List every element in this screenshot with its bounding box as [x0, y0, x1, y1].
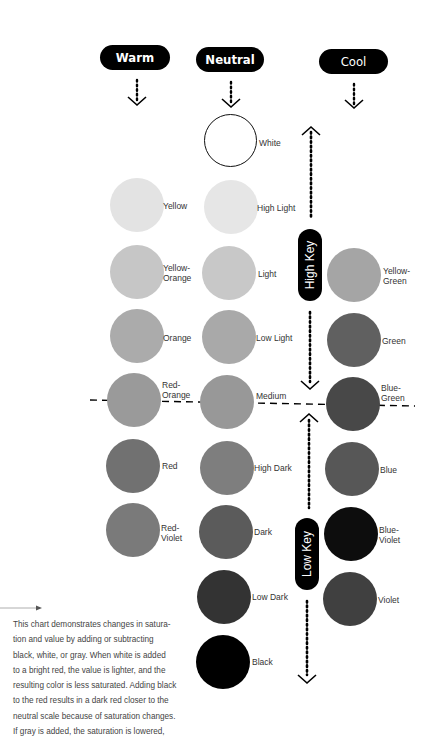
warm-label-orange: Orange: [163, 333, 191, 343]
caption-arrow-icon: [0, 606, 42, 611]
neutral-swatch-dark: [199, 505, 253, 559]
high-key-up-arrow-icon: [302, 127, 320, 218]
cool-label-yellow-green: Yellow- Green: [383, 266, 410, 286]
neutral-label-medium: Medium: [256, 391, 286, 401]
cool-swatch-violet: [323, 572, 377, 626]
neutral-label-dark: Dark: [254, 527, 272, 537]
high-key-label: High Key: [303, 241, 317, 290]
neutral-swatch-low-dark: [197, 570, 251, 624]
warm-swatch-red: [106, 439, 160, 493]
neutral-swatch-high-light: [204, 180, 258, 234]
neutral-label-light: Light: [258, 269, 276, 279]
cool-swatch-blue: [325, 442, 379, 496]
caption-text: This chart demonstrates changes in satur…: [13, 617, 213, 739]
neutral-swatch-high-dark: [200, 441, 254, 495]
neutral-label-low-light: Low Light: [256, 333, 292, 343]
high-key-down-arrow-icon: [301, 312, 319, 389]
high-key-pill: High Key: [298, 229, 322, 301]
cool-label-blue-violet: Blue- Violet: [379, 525, 400, 545]
neutral-label-white: White: [259, 138, 281, 148]
cool-label-blue: Blue: [380, 465, 397, 475]
neutral-swatch-medium: [200, 375, 254, 429]
warm-label-red: Red: [162, 461, 178, 471]
warm-down-arrow-icon: [128, 80, 146, 105]
warm-label-yellow: Yellow: [163, 201, 187, 211]
low-key-pill: Low Key: [295, 518, 319, 590]
cool-swatch-yellow-green: [327, 248, 381, 302]
neutral-down-arrow-icon: [222, 82, 240, 107]
low-key-label: Low Key: [300, 531, 314, 577]
cool-label-green: Green: [382, 336, 406, 346]
warm-label-red-orange: Red- Orange: [162, 380, 190, 400]
low-key-down-arrow-icon: [298, 601, 316, 683]
cool-label-blue-green: Blue- Green: [381, 383, 405, 403]
cool-swatch-green: [327, 313, 381, 367]
neutral-label-high-dark: High Dark: [254, 463, 292, 473]
neutral-label-low-dark: Low Dark: [252, 592, 288, 602]
neutral-swatch-low-light: [202, 310, 256, 364]
warm-label-red-violet: Red- Violet: [161, 523, 182, 543]
neutral-swatch-light: [202, 246, 256, 300]
cool-swatch-blue-green: [326, 377, 380, 431]
neutral-swatch-white: [204, 114, 257, 167]
warm-swatch-yellow-orange: [110, 245, 164, 299]
cool-down-arrow-icon: [345, 84, 363, 108]
warm-swatch-yellow: [110, 178, 164, 232]
neutral-label-high-light: High Light: [257, 203, 295, 213]
cool-label-violet: Violet: [378, 595, 399, 605]
warm-swatch-red-orange: [107, 373, 161, 427]
neutral-label-black: Black: [252, 657, 273, 667]
warm-label-yellow-orange: Yellow- Orange: [163, 263, 191, 283]
low-key-up-arrow-icon: [300, 414, 318, 508]
cool-swatch-blue-violet: [324, 507, 378, 561]
warm-swatch-red-violet: [106, 503, 160, 557]
warm-swatch-orange: [110, 309, 164, 363]
